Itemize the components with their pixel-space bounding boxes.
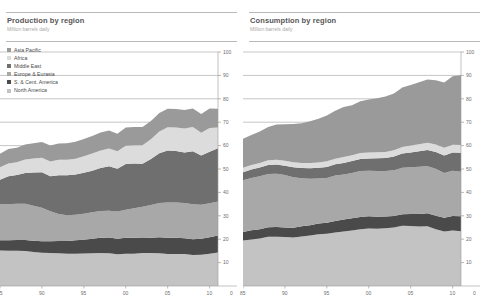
x-axis-label: 85 bbox=[0, 290, 3, 296]
legend-swatch-icon bbox=[7, 72, 11, 76]
x-axis-end-label: 0 bbox=[230, 290, 233, 296]
panel-consumption: Consumption by region Million barrels da… bbox=[243, 0, 486, 303]
legend-item[interactable]: Africa bbox=[7, 54, 58, 62]
legend-item[interactable]: Middle East bbox=[7, 62, 58, 70]
panel-production: Production by region Million barrels dai… bbox=[0, 0, 243, 303]
legend-item[interactable]: Europe & Eurasia bbox=[7, 70, 58, 78]
legend-item-label: S. & Cent. America bbox=[14, 78, 58, 86]
legend-swatch-icon bbox=[7, 89, 11, 93]
dual-chart-sheet: Production by region Million barrels dai… bbox=[0, 0, 486, 303]
legend-item-label: Europe & Eurasia bbox=[14, 70, 55, 78]
x-axis-label: 85 bbox=[240, 290, 246, 296]
x-axis-label: 00 bbox=[366, 290, 372, 296]
x-axis-label: 90 bbox=[282, 290, 288, 296]
x-axis-label: 10 bbox=[207, 290, 213, 296]
legend-item[interactable]: S. & Cent. America bbox=[7, 78, 58, 86]
legend-swatch-icon bbox=[7, 48, 11, 52]
legend-item-label: Middle East bbox=[14, 62, 41, 70]
legend-item[interactable]: Asia Pacific bbox=[7, 46, 58, 54]
x-axis-consumption: 8590950005100 bbox=[243, 0, 486, 303]
x-axis-label: 05 bbox=[165, 290, 171, 296]
chart-legend: Asia PacificAfricaMiddle EastEurope & Eu… bbox=[7, 46, 58, 95]
x-axis-end-label: 0 bbox=[473, 290, 476, 296]
legend-swatch-icon bbox=[7, 64, 11, 68]
legend-item[interactable]: North America bbox=[7, 86, 58, 94]
x-axis-label: 95 bbox=[81, 290, 87, 296]
x-axis-label: 90 bbox=[39, 290, 45, 296]
legend-item-label: Africa bbox=[14, 54, 27, 62]
x-axis-label: 95 bbox=[324, 290, 330, 296]
x-axis-label: 05 bbox=[408, 290, 414, 296]
legend-swatch-icon bbox=[7, 56, 11, 60]
legend-swatch-icon bbox=[7, 80, 11, 84]
legend-item-label: Asia Pacific bbox=[14, 46, 41, 54]
x-axis-label: 00 bbox=[123, 290, 129, 296]
x-axis-label: 10 bbox=[450, 290, 456, 296]
legend-item-label: North America bbox=[14, 86, 47, 94]
